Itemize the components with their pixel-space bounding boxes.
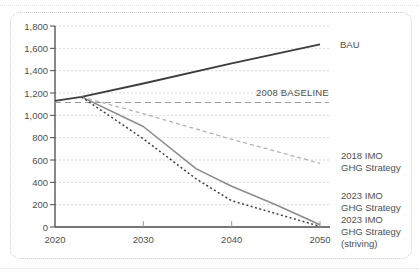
series-label-bau: BAU [340, 39, 360, 51]
series-label-2018-imo-ghg-strategy: 2018 IMO GHG Strategy [341, 150, 401, 174]
page-bottom-rule [0, 268, 419, 269]
y-tick-label: 600 [32, 155, 48, 166]
series-label-2023-imo-ghg-strategy-striving: 2023 IMO GHG Strategy (striving) [341, 214, 401, 250]
y-tick-label: 800 [32, 132, 48, 143]
x-tick-label: 2020 [44, 234, 65, 245]
y-tick-label: 1,400 [24, 65, 48, 76]
y-tick-label: 1,000 [24, 110, 48, 121]
y-tick-label: 1,200 [24, 88, 48, 99]
series-label-2023-imo-ghg-strategy: 2023 IMO GHG Strategy [341, 190, 401, 214]
series-line-2023-imo-ghg-strategy [82, 97, 321, 225]
x-tick-label: 2050 [309, 234, 330, 245]
x-tick-label: 2040 [221, 234, 242, 245]
y-tick-label: 200 [32, 199, 48, 210]
series-line-2023-imo-ghg-strategy-striving- [82, 97, 321, 227]
series-line-2018-imo-ghg-strategy [82, 97, 321, 163]
series-label-2008-baseline: 2008 BASELINE [256, 87, 334, 99]
x-tick-label: 2030 [133, 234, 154, 245]
y-tick-label: 400 [32, 177, 48, 188]
y-tick-label: 0 [43, 222, 48, 233]
y-tick-label: 1,800 [24, 21, 48, 32]
y-tick-label: 1,600 [24, 43, 48, 54]
